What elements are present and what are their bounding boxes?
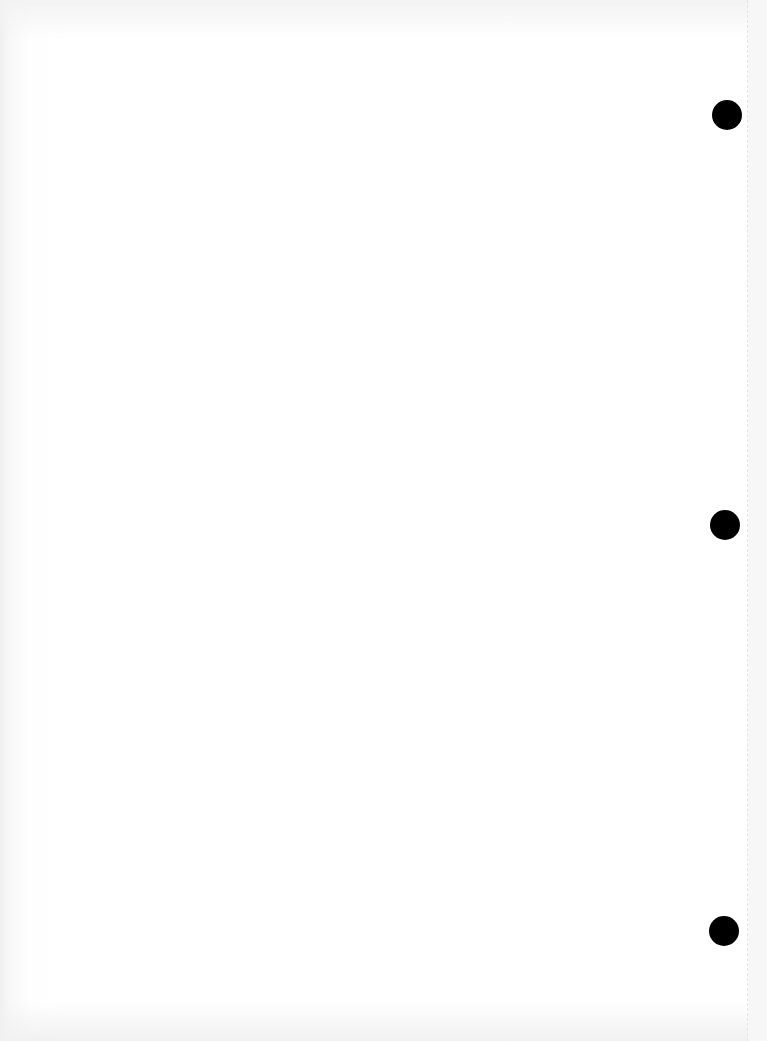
- scan-top-shadow: [0, 0, 767, 40]
- page-edge-line: [747, 0, 749, 1041]
- punch-hole-top: [712, 100, 742, 130]
- punch-hole-middle: [710, 510, 740, 540]
- scanned-page: [0, 0, 767, 1041]
- punch-hole-bottom: [709, 916, 739, 946]
- page-edge-strip: [748, 0, 767, 1041]
- scan-bottom-shadow: [0, 1001, 767, 1041]
